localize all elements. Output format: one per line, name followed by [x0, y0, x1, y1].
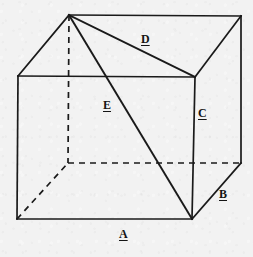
edge-bottom-left-receding	[17, 163, 68, 219]
label-e: E	[103, 99, 111, 111]
edge-top-right-receding	[195, 16, 241, 77]
edge-bottom-right-receding	[192, 163, 241, 219]
edge-back-left-vertical	[68, 15, 69, 163]
cube-edges-solid	[17, 15, 241, 219]
cube-diagram	[0, 0, 253, 257]
edge-front-left-vertical	[17, 76, 18, 219]
cube-edges-hidden	[17, 15, 241, 219]
edge-front-right-vertical	[192, 77, 195, 219]
label-d: D	[141, 33, 150, 45]
label-c: C	[198, 107, 207, 119]
edge-top-back	[69, 15, 241, 16]
figure-page: A B C D E	[0, 0, 253, 257]
edge-top-left-receding	[18, 15, 69, 76]
label-a: A	[119, 228, 128, 240]
cube-diagonals	[69, 15, 195, 219]
label-b: B	[219, 188, 227, 200]
